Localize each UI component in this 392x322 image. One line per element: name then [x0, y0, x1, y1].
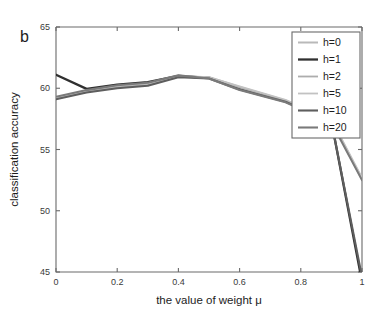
y-axis-title: classification accuracy	[8, 92, 20, 207]
legend-label-h1: h=1	[323, 53, 341, 65]
panel-label-text: b	[20, 28, 29, 45]
x-tick-label: 0	[53, 277, 58, 287]
y-tick-label: 55	[40, 145, 50, 155]
legend-label-h20: h=20	[323, 121, 347, 133]
chart-legend: h=0h=1h=2h=5h=10h=20	[292, 32, 360, 138]
x-axis-title: the value of weight μ	[156, 294, 262, 306]
legend-label-h0: h=0	[323, 36, 341, 48]
legend-label-h2: h=2	[323, 70, 341, 82]
y-tick-label: 50	[40, 206, 50, 216]
x-tick-label: 0.6	[233, 277, 246, 287]
y-tick-label: 60	[40, 83, 50, 93]
legend-label-h10: h=10	[323, 104, 347, 116]
x-tick-label: 0.4	[172, 277, 185, 287]
y-tick-label: 45	[40, 267, 50, 277]
x-tick-label: 1	[359, 277, 364, 287]
x-tick-label: 0.2	[111, 277, 124, 287]
figure-panel: b 455055606500.20.40.60.81 h=0h=1h=2h=5h…	[0, 0, 392, 322]
legend-label-h5: h=5	[323, 87, 341, 99]
y-tick-label: 65	[40, 22, 50, 32]
chart-canvas: b 455055606500.20.40.60.81 h=0h=1h=2h=5h…	[0, 0, 392, 322]
panel-label: b	[20, 28, 29, 45]
x-tick-label: 0.8	[295, 277, 308, 287]
